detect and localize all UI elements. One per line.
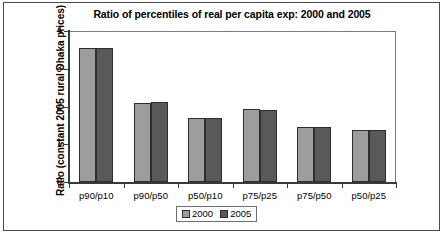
x-tick-mark bbox=[233, 184, 234, 188]
bar-p75-p50-2000 bbox=[297, 127, 314, 182]
x-tick-label: p50/p10 bbox=[175, 190, 235, 201]
bar-p50-p10-2005 bbox=[205, 118, 222, 182]
x-tick-mark bbox=[69, 184, 70, 188]
bar-p90-p10-2000 bbox=[79, 48, 96, 182]
legend-label: 2000 bbox=[192, 209, 213, 219]
plot-area bbox=[69, 31, 396, 183]
legend-swatch-icon bbox=[182, 210, 190, 218]
x-tick-mark bbox=[342, 184, 343, 188]
x-tick-label: p50/p25 bbox=[339, 190, 399, 201]
x-tick-mark bbox=[396, 184, 397, 188]
bar-p90-p10-2005 bbox=[96, 48, 113, 182]
chart-title: Ratio of percentiles of real per capita … bbox=[52, 8, 412, 20]
x-tick-label: p75/p50 bbox=[284, 190, 344, 201]
y-tick-mark bbox=[64, 31, 69, 32]
bar-p90-p50-2005 bbox=[151, 102, 168, 182]
x-tick-label: p75/p25 bbox=[230, 190, 290, 201]
bar-p50-p10-2000 bbox=[188, 118, 205, 182]
y-tick-label: 4 bbox=[50, 26, 62, 36]
y-tick-label: 3 bbox=[50, 64, 62, 74]
x-tick-mark bbox=[287, 184, 288, 188]
y-tick-label: 1 bbox=[50, 139, 62, 149]
legend-item-2000: 2000 bbox=[182, 209, 213, 219]
bar-p50-p25-2005 bbox=[369, 130, 386, 182]
y-tick-mark bbox=[64, 144, 69, 145]
y-tick-label: 0 bbox=[50, 177, 62, 187]
chart-legend: 20002005 bbox=[176, 206, 257, 222]
bar-p50-p25-2000 bbox=[352, 130, 369, 182]
chart-screenshot: Ratio of percentiles of real per capita … bbox=[0, 0, 445, 237]
y-tick-mark bbox=[64, 69, 69, 70]
x-tick-label: p90/p50 bbox=[121, 190, 181, 201]
x-tick-label: p90/p10 bbox=[66, 190, 126, 201]
legend-swatch-icon bbox=[220, 210, 228, 218]
y-tick-label: 2 bbox=[50, 102, 62, 112]
legend-label: 2005 bbox=[230, 209, 251, 219]
y-tick-mark bbox=[64, 182, 69, 183]
bar-p75-p50-2005 bbox=[314, 127, 331, 182]
legend-item-2005: 2005 bbox=[220, 209, 251, 219]
bar-p75-p25-2000 bbox=[243, 109, 260, 182]
x-tick-mark bbox=[178, 184, 179, 188]
bar-p90-p50-2000 bbox=[134, 103, 151, 182]
y-tick-mark bbox=[64, 107, 69, 108]
bar-p75-p25-2005 bbox=[260, 110, 277, 182]
x-tick-mark bbox=[124, 184, 125, 188]
